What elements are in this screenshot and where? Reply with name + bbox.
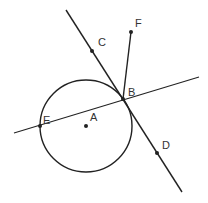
point-marker (129, 30, 133, 34)
point-F: F (129, 17, 142, 34)
point-label: C (98, 36, 106, 48)
point-marker (38, 124, 42, 128)
point-label: F (135, 17, 142, 29)
tangent-line-CD (66, 10, 182, 192)
geometry-diagram: ABCDEF (0, 0, 208, 203)
point-label: A (90, 111, 98, 123)
point-marker (84, 124, 88, 128)
point-D: D (155, 139, 170, 155)
point-label: D (162, 139, 170, 151)
point-label: E (43, 114, 50, 126)
point-label: B (128, 86, 135, 98)
point-A: A (84, 111, 98, 128)
point-marker (90, 49, 94, 53)
point-C: C (90, 36, 106, 53)
point-marker (121, 97, 125, 101)
point-marker (155, 151, 159, 155)
